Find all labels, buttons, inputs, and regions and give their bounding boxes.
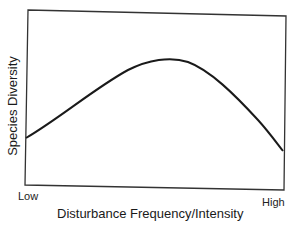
plot-frame bbox=[25, 10, 286, 190]
x-axis-label: Disturbance Frequency/Intensity bbox=[57, 206, 243, 221]
x-tick-low: Low bbox=[18, 190, 38, 202]
chart-canvas bbox=[0, 0, 292, 231]
diversity-curve bbox=[26, 59, 283, 151]
frame-border bbox=[25, 10, 286, 190]
x-tick-high: High bbox=[262, 196, 285, 208]
data-series bbox=[26, 59, 283, 151]
y-axis-label: Species Diversity bbox=[5, 56, 20, 156]
